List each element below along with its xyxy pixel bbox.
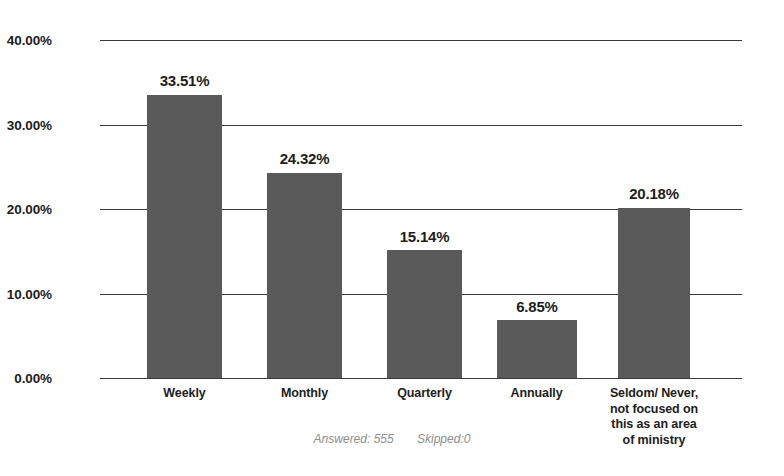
plot-area: 40.00% 30.00% 20.00% 10.00% 0.00% (100, 40, 742, 378)
y-axis-tick-label-0: 0.00% (0, 371, 52, 386)
y-axis-tick-label-10: 10.00% (0, 286, 52, 301)
y-axis-tick-label-20: 20.00% (0, 202, 52, 217)
gridline-40 (100, 40, 742, 41)
bar-value-quarterly: 15.14% (387, 228, 462, 245)
bar-annually[interactable] (497, 320, 577, 378)
bar-value-annually: 6.85% (497, 298, 577, 315)
y-axis-tick-label-30: 30.00% (0, 117, 52, 132)
gridline-0-baseline (100, 378, 742, 379)
bar-quarterly[interactable] (387, 250, 462, 378)
y-axis-tick-label-40: 40.00% (0, 33, 52, 48)
answered-count: Answered: 555 (314, 432, 394, 446)
skipped-count: Skipped:0 (417, 432, 470, 446)
category-label-annually: Annually (489, 386, 584, 402)
bar-weekly[interactable] (147, 95, 222, 378)
category-label-weekly: Weekly (137, 386, 232, 402)
bar-chart: 40.00% 30.00% 20.00% 10.00% 0.00% 33.51%… (0, 0, 784, 476)
category-label-monthly: Monthly (257, 386, 352, 402)
bar-value-weekly: 33.51% (147, 72, 222, 89)
bar-value-seldom-never: 20.18% (618, 185, 690, 202)
bar-seldom-never[interactable] (618, 208, 690, 379)
chart-footer: Answered: 555 Skipped:0 (0, 432, 784, 446)
bar-monthly[interactable] (267, 173, 342, 379)
category-label-quarterly: Quarterly (377, 386, 472, 402)
bar-value-monthly: 24.32% (267, 150, 342, 167)
